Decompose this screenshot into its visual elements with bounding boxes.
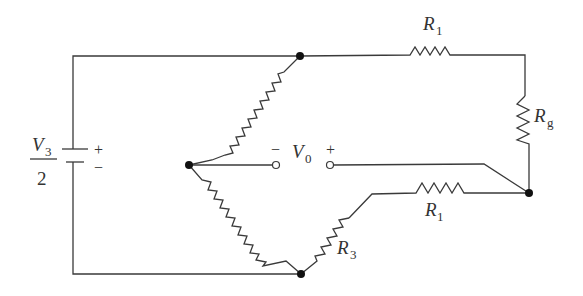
v0-label: V [292,141,306,162]
resistor-lower-left [189,165,301,274]
rg-label: R [533,105,546,126]
wire-bottom-left [73,162,301,274]
r1-top-label: R [422,13,435,34]
circuit-diagram: V 3 2 + − R 1 R g R 1 R 3 − + [0,0,583,296]
v0-minus-sign: − [271,141,280,158]
node-top [296,52,304,60]
node-right [525,189,533,197]
r1-top-label-sub: 1 [436,23,443,38]
r1-bottom-label-sub: 1 [437,209,444,224]
terminal-v0-plus[interactable] [327,162,334,169]
source-label-sub: 3 [45,144,52,159]
node-bottom [297,270,305,278]
resistor-r1-top [300,47,525,96]
rg-label-sub: g [547,115,554,130]
resistor-upper-left [189,56,300,165]
terminal-v0-minus[interactable] [273,162,280,169]
source-label-v: V [32,134,46,155]
v0-label-sub: 0 [305,151,312,166]
battery-plus-sign: + [94,141,103,158]
resistor-rg [517,96,529,193]
wire-top-left [73,56,300,149]
battery-minus-sign: − [94,159,103,176]
r3-label: R [336,237,349,258]
output-terminals: − + V 0 [271,141,335,169]
r3-label-sub: 3 [350,247,357,262]
r1-bottom-label: R [424,199,437,220]
node-left [185,161,193,169]
source-label-denominator: 2 [37,168,47,189]
v0-plus-sign: + [326,141,335,158]
